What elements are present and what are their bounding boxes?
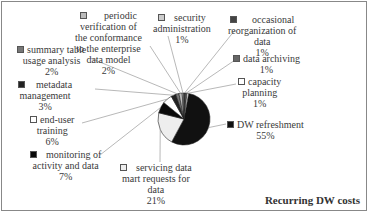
chart-title: Recurring DW costs <box>265 194 360 206</box>
legend-swatch-icon <box>238 78 245 85</box>
legend-swatch-icon <box>227 121 234 128</box>
legend-swatch-icon <box>30 151 37 158</box>
leader-line <box>209 124 226 128</box>
chart-frame: periodic verification of the conformance… <box>0 0 370 214</box>
leader-line <box>188 84 236 93</box>
legend-swatch-icon <box>30 116 37 123</box>
legend-swatch-icon <box>80 12 87 19</box>
label-servicing-data-mart: servicing data mart requests for data 21… <box>120 162 192 206</box>
legend-swatch-icon <box>158 14 165 21</box>
label-end-user-training: end-user training 6% <box>30 114 74 147</box>
label-monitoring-activity: monitoring of activity and data 7% <box>30 149 101 182</box>
legend-swatch-icon <box>230 16 237 23</box>
leader-line <box>186 58 238 93</box>
legend-swatch-icon <box>233 55 240 62</box>
leader-line <box>82 99 167 123</box>
leader-line <box>95 89 173 95</box>
label-security-administration: security administration 1% <box>153 12 211 45</box>
leader-line <box>100 107 161 155</box>
legend-swatch-icon <box>17 46 24 53</box>
legend-swatch-icon <box>18 81 25 88</box>
label-summary-table-usage: summary table usage analysis 2% <box>17 44 86 77</box>
label-occasional-reorganization: occasional reorganization of data 1% <box>228 14 296 58</box>
label-metadata-management: metadata management 3% <box>18 79 72 112</box>
label-data-archiving: data archiving 1% <box>233 53 300 75</box>
legend-swatch-icon <box>120 164 127 171</box>
label-dw-refreshment: DW refreshment 55% <box>227 119 304 141</box>
label-capacity-planning: capacity planning 1% <box>238 76 281 109</box>
leader-line <box>150 46 181 93</box>
